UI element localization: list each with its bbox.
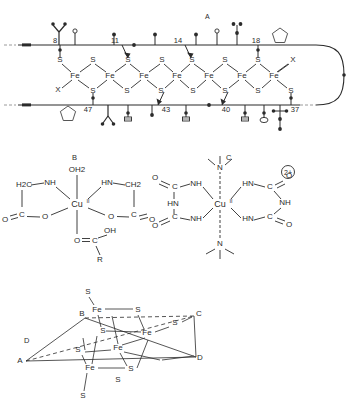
sidechain-branched-a <box>101 105 116 126</box>
panel-c-right-o-upper: O <box>286 171 292 180</box>
residue-number-top-3: 14 <box>174 36 182 45</box>
backbone-top-terminus <box>22 43 31 46</box>
sidechain-stick-bar-1 <box>125 105 132 121</box>
chain-s-upper-5: S <box>189 55 194 64</box>
chain-s-lower-4: S <box>190 86 195 95</box>
chain-fe-7: Fe <box>269 71 279 80</box>
panel-d-fe-3: Fe <box>113 343 123 352</box>
sidechain-inline-dot-2 <box>207 103 211 107</box>
panel-b-metal: Cu <box>71 199 83 209</box>
chain-s-lower-3: S <box>158 86 163 95</box>
sidechain-ring-pentagon-bottom <box>60 106 75 121</box>
panel-c: C Cu II 2+ N N NH NH C C HN O O <box>152 153 295 259</box>
figure-canvas: A <box>0 0 354 412</box>
panel-d-s-core-1: S <box>135 305 140 314</box>
panel-c-label: C <box>226 153 232 162</box>
panel-b-left-carbonyl-o: O <box>2 215 8 224</box>
residue-number-bottom-1: 47 <box>84 105 92 114</box>
chain-x-right: X <box>290 55 296 64</box>
chain-fe-1: Fe <box>70 71 80 80</box>
panel-c-left-o-lower: O <box>152 221 158 230</box>
backbone-bottom-terminus <box>22 103 31 106</box>
residue-number-top-4: 18 <box>252 36 260 45</box>
sidechain-stick-bar-3 <box>242 105 249 121</box>
panel-b-axial-r: R <box>97 255 103 264</box>
sidechain-stick-circle-1 <box>73 29 77 45</box>
panel-d-fe-2: Fe <box>142 328 152 337</box>
chain-s-lower-1: S <box>90 86 95 95</box>
panel-d-fe-4: Fe <box>85 363 95 372</box>
panel-b-axial-water: OH2 <box>69 165 86 174</box>
panel-c-left-nh-upper: NH <box>190 179 202 188</box>
panel-c-metal: Cu <box>214 199 226 209</box>
loop-residue-dot <box>342 73 346 77</box>
chain-s-upper-1: S <box>57 55 62 64</box>
panel-d-tetrahedron <box>26 316 196 361</box>
panel-b-left-n-bond <box>56 187 70 199</box>
sidechain-inline-dot-1 <box>132 43 136 47</box>
panel-c-right-c-upper: C <box>267 182 273 191</box>
panel-b-left-ester-o: O <box>42 212 48 221</box>
chain-fe-3: Fe <box>139 71 149 80</box>
chain-s-lower-5: S <box>222 86 227 95</box>
sidechain-stick-cross-dot <box>272 105 289 131</box>
panel-c-right-c-lower: C <box>267 212 273 221</box>
sidechain-stick-dot-2 <box>153 33 157 45</box>
fe-s-chain: S S S S S S S Fe Fe Fe Fe Fe Fe Fe S S S… <box>55 55 296 95</box>
residue-number-bottom-4: 37 <box>291 105 299 114</box>
panel-c-right-hn-lower: HN <box>242 214 254 223</box>
panel-d-s-terminal-4: S <box>115 375 120 384</box>
panel-c-left-o-upper: O <box>152 173 158 182</box>
panel-c-left-c-lower: C <box>172 212 178 221</box>
figure-root: A <box>0 0 354 412</box>
panel-c-left-hn: HN <box>167 199 179 208</box>
chain-fe-5: Fe <box>204 71 214 80</box>
panel-c-right-hn-upper: HN <box>242 179 254 188</box>
panel-b-right-o-bond <box>88 208 105 215</box>
sidechain-stick-ring <box>260 105 268 123</box>
panel-b-left-c: C <box>19 210 25 219</box>
chain-s-lower-6: S <box>255 86 260 95</box>
panel-d-vertex-c: C <box>196 309 202 318</box>
sidechain-stick-double-dot <box>232 22 243 45</box>
panel-d: D A B C D Fe Fe Fe Fe S S S S <box>17 287 203 400</box>
panel-b-axial-o: O <box>74 236 80 245</box>
residue-number-top-2: 11 <box>111 36 119 45</box>
chain-fe-4: Fe <box>172 71 182 80</box>
chain-fe-6: Fe <box>237 71 247 80</box>
chain-s-upper-7: S <box>255 55 260 64</box>
panel-b-right-c: C <box>131 210 137 219</box>
panel-b-left-o-bond <box>51 208 68 215</box>
panel-b-axial-c: C <box>92 236 98 245</box>
panel-d-s-terminal-3: S <box>80 391 85 400</box>
panel-b-left-ch2: H2C <box>16 180 32 189</box>
backbone-turn-loop <box>316 45 344 105</box>
sidechain-stick-bar-2 <box>183 105 190 121</box>
panel-a-label: A <box>205 13 210 20</box>
panel-d-s-terminal-2: S <box>172 318 177 327</box>
residue-number-bottom-2: 43 <box>162 105 170 114</box>
panel-b-left-nh: NH <box>44 178 56 187</box>
panel-d-s-core-4: S <box>75 345 80 354</box>
panel-d-s-core-2: S <box>100 326 105 335</box>
panel-d-vertex-b: B <box>79 309 84 318</box>
sidechain-stick-dot-bottom-1 <box>150 105 154 117</box>
panel-c-right-o-lower: O <box>286 220 292 229</box>
panel-c-axial-bottom-n: N <box>217 239 223 248</box>
panel-c-axial-top-n: N <box>217 163 223 172</box>
panel-b-right-ester-o: O <box>108 212 114 221</box>
chain-s-upper-4: S <box>159 55 164 64</box>
sidechain-stick-dot-3 <box>194 33 198 45</box>
panel-b-label: B <box>72 153 77 162</box>
chain-s-lower-7: S <box>288 86 293 95</box>
panel-b: B Cu II OH2 O C OH R H2C NH C O O HN CH2 <box>2 153 155 264</box>
panel-c-left-nh-lower: NH <box>190 214 202 223</box>
panel-d-label: D <box>24 336 30 345</box>
residue-number-bottom-3: 40 <box>222 105 230 114</box>
chain-x-left: X <box>55 85 61 94</box>
panel-d-s-terminal-1: S <box>85 287 90 296</box>
panel-b-axial-oh: OH <box>104 226 116 235</box>
panel-d-s-core-3: S <box>128 364 133 373</box>
chain-s-upper-6: S <box>222 55 227 64</box>
sidechain-ring-pentagon-top <box>272 28 287 43</box>
